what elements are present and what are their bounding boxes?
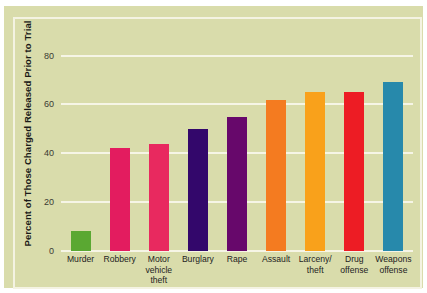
x-axis-label: Drugoffense <box>335 254 374 286</box>
x-axis-label-line: Weapons <box>375 254 412 265</box>
x-axis-labels-group: MurderRobberyMotorvehicletheftBurglaryRa… <box>61 254 413 286</box>
bar <box>266 100 286 251</box>
bar <box>149 144 169 252</box>
x-axis-label: Motorvehicletheft <box>139 254 178 286</box>
x-axis-label-line: vehicle <box>140 265 177 276</box>
bar <box>305 92 325 251</box>
bar-slot <box>61 36 100 251</box>
chart-figure: Percent of Those Charged Released Prior … <box>0 0 427 293</box>
x-axis-label-line: offense <box>336 265 373 276</box>
x-axis-label: Murder <box>61 254 100 286</box>
y-axis-tick-label: 20 <box>44 197 54 207</box>
x-axis-label-line: Robbery <box>101 254 138 265</box>
x-axis-label-line: Burglary <box>179 254 216 265</box>
bar-slot <box>217 36 256 251</box>
x-axis-label: Larceny/theft <box>296 254 335 286</box>
x-axis-label-line: theft <box>297 265 334 276</box>
y-axis-tick-label: 40 <box>44 148 54 158</box>
x-axis-label-line: Drug <box>336 254 373 265</box>
y-axis-tick-label: 80 <box>44 51 54 61</box>
x-axis-label-line: Murder <box>62 254 99 265</box>
bar-slot <box>139 36 178 251</box>
bar-slot <box>100 36 139 251</box>
x-axis-label-line: Rape <box>218 254 255 265</box>
bar <box>344 92 364 251</box>
y-axis-tick-label: 60 <box>44 99 54 109</box>
bar-slot <box>335 36 374 251</box>
bar <box>227 117 247 251</box>
y-axis-title: Percent of Those Charged Released Prior … <box>22 19 33 249</box>
x-axis-label: Robbery <box>100 254 139 286</box>
bar-slot <box>374 36 413 251</box>
x-axis-label: Assault <box>257 254 296 286</box>
x-axis-label-line: theft <box>140 275 177 286</box>
bar-slot <box>257 36 296 251</box>
x-axis-label-line: Motor <box>140 254 177 265</box>
x-axis-label-line: offense <box>375 265 412 276</box>
bar <box>383 82 403 251</box>
bar <box>188 129 208 251</box>
bars-group <box>61 36 413 251</box>
bar <box>71 231 91 251</box>
x-axis-label: Rape <box>217 254 256 286</box>
bar-slot <box>178 36 217 251</box>
y-axis-tick-label: 0 <box>49 246 54 256</box>
x-axis-label-line: Assault <box>258 254 295 265</box>
chart-plate: Percent of Those Charged Released Prior … <box>4 6 423 288</box>
x-axis-label-line: Larceny/ <box>297 254 334 265</box>
x-axis-label: Burglary <box>178 254 217 286</box>
plot-area: 020406080 <box>61 36 413 251</box>
x-axis-label: Weaponsoffense <box>374 254 413 286</box>
bar <box>110 148 130 251</box>
bar-slot <box>296 36 335 251</box>
